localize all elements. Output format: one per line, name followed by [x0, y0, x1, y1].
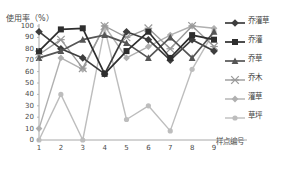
- data-point: [57, 36, 65, 44]
- x-tick-label: 3: [77, 144, 89, 152]
- y-tick-label: 0: [14, 136, 34, 144]
- y-tick-label: 30: [14, 102, 34, 110]
- data-point: [190, 67, 195, 72]
- data-point: [124, 117, 129, 122]
- legend-item: 乔灌: [224, 29, 286, 48]
- data-point: [189, 32, 195, 38]
- y-tick-label: 90: [14, 33, 34, 41]
- legend-item: 乔木: [224, 67, 286, 86]
- data-point: [145, 43, 152, 50]
- x-tick-label: 8: [186, 144, 198, 152]
- data-point: [57, 55, 64, 62]
- data-point: [58, 92, 63, 97]
- y-tick-label: 60: [14, 68, 34, 76]
- x-tick-label: 9: [208, 144, 220, 152]
- x-tick-label: 4: [99, 144, 111, 152]
- legend-item: 草坪: [224, 105, 286, 124]
- data-point: [102, 71, 108, 77]
- x-tick-label: 2: [55, 144, 67, 152]
- diamond-marker: [224, 14, 246, 26]
- y-tick-label: 20: [14, 113, 34, 121]
- y-tick-label: 70: [14, 56, 34, 64]
- x-tick-label: 5: [121, 144, 133, 152]
- x-tick-label: 1: [33, 144, 45, 152]
- legend-label: 乔草: [248, 52, 262, 63]
- data-point: [167, 55, 173, 61]
- legend-item: 乔灌草: [224, 10, 286, 29]
- y-tick-label: 100: [14, 22, 34, 30]
- y-tick-label: 50: [14, 79, 34, 87]
- y-tick-label: 10: [14, 125, 34, 133]
- chart-legend: 乔灌草乔灌乔草乔木灌草草坪: [224, 10, 286, 124]
- legend-label: 灌草: [248, 90, 262, 101]
- data-point: [80, 137, 85, 142]
- legend-label: 乔灌草: [248, 14, 269, 25]
- cross-marker: [224, 71, 246, 83]
- y-tick-label: 80: [14, 45, 34, 53]
- data-point: [58, 26, 64, 32]
- legend-label: 乔灌: [248, 33, 262, 44]
- data-point: [168, 128, 173, 133]
- square-marker: [224, 33, 246, 45]
- legend-label: 乔木: [248, 71, 262, 82]
- x-tick-label: 7: [164, 144, 176, 152]
- legend-item: 灌草: [224, 86, 286, 105]
- legend-label: 草坪: [248, 109, 262, 120]
- diamond-marker: [224, 90, 246, 102]
- legend-item: 乔草: [224, 48, 286, 67]
- data-point: [145, 29, 151, 35]
- data-point: [146, 103, 151, 108]
- data-point: [124, 48, 130, 54]
- data-point: [166, 45, 174, 53]
- x-tick-label: 6: [142, 144, 154, 152]
- triangle-marker: [224, 52, 246, 64]
- data-point: [211, 37, 217, 43]
- y-tick-label: 40: [14, 90, 34, 98]
- circle-marker: [224, 109, 246, 121]
- data-point: [80, 25, 86, 31]
- chart-figure: 使用率（%） 样点编号 1009080706050403020100 12345…: [0, 0, 288, 174]
